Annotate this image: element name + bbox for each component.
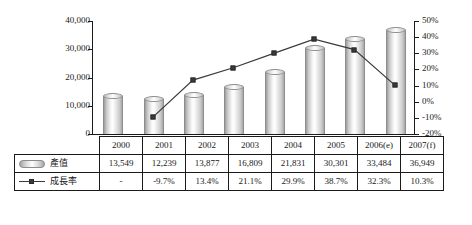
table-row: 成長率--9.7%13.4%21.1%29.9%38.7%32.3%10.3% xyxy=(15,173,444,191)
right-axis-tick-label: 10% xyxy=(422,81,439,90)
year-header-cell: 2005 xyxy=(315,137,358,155)
line-marker xyxy=(392,83,397,88)
data-cell: 30,301 xyxy=(315,155,358,173)
data-cell: 38.7% xyxy=(315,173,358,191)
data-cell: 21,831 xyxy=(272,155,315,173)
legend-label: 成長率 xyxy=(50,177,77,186)
left-axis-tick xyxy=(88,134,92,135)
data-table: 2000200120022003200420052006(e)2007(f)產值… xyxy=(14,136,444,191)
table-header-row: 2000200120022003200420052006(e)2007(f) xyxy=(15,137,444,155)
line-marker xyxy=(312,37,317,42)
bar-swatch-icon xyxy=(19,160,45,168)
data-cell: 36,949 xyxy=(401,155,444,173)
data-cell: -9.7% xyxy=(143,173,186,191)
right-axis-tick xyxy=(415,118,419,119)
table-row: 產值13,54912,23913,87716,80921,83130,30133… xyxy=(15,155,444,173)
year-header-cell: 2001 xyxy=(143,137,186,155)
line-series-growth-rate xyxy=(92,21,415,134)
data-cell: 29.9% xyxy=(272,173,315,191)
plot-area xyxy=(92,21,415,134)
data-cell: 13,549 xyxy=(100,155,143,173)
data-cell: 13.4% xyxy=(186,173,229,191)
line-marker xyxy=(190,78,195,83)
line-marker-swatch-icon xyxy=(19,178,45,186)
combo-chart-figure: 010,00020,00030,00040,000 -20%-10%0%10%2… xyxy=(0,0,472,225)
left-axis-tick-label: 20,000 xyxy=(65,73,90,82)
data-cell: 10.3% xyxy=(401,173,444,191)
data-cell: 21.1% xyxy=(229,173,272,191)
right-axis-tick xyxy=(415,21,419,22)
left-axis-tick-label: 10,000 xyxy=(65,101,90,110)
right-axis-tick xyxy=(415,86,419,87)
year-header-cell: 2004 xyxy=(272,137,315,155)
right-axis-tick xyxy=(415,69,419,70)
right-axis-tick-label: 50% xyxy=(422,16,439,25)
data-cell: 32.3% xyxy=(358,173,401,191)
right-axis-tick-label: 0% xyxy=(422,97,434,106)
data-cell: 12,239 xyxy=(143,155,186,173)
table-corner-cell xyxy=(15,137,100,155)
line-marker xyxy=(150,115,155,120)
right-axis-tick xyxy=(415,37,419,38)
right-axis-tick-label: 40% xyxy=(422,32,439,41)
year-header-cell: 2006(e) xyxy=(358,137,401,155)
year-header-cell: 2000 xyxy=(100,137,143,155)
right-axis-tick-label: 20% xyxy=(422,64,439,73)
right-axis-tick-label: 30% xyxy=(422,48,439,57)
line-marker xyxy=(231,65,236,70)
legend-label: 產值 xyxy=(50,159,68,168)
right-axis-tick xyxy=(415,53,419,54)
data-cell: 13,877 xyxy=(186,155,229,173)
legend-cell[interactable]: 產值 xyxy=(15,155,100,173)
data-cell: - xyxy=(100,173,143,191)
year-header-cell: 2007(f) xyxy=(401,137,444,155)
right-axis-tick xyxy=(415,134,419,135)
line-marker xyxy=(352,47,357,52)
category-axis-baseline xyxy=(92,134,415,135)
year-header-cell: 2003 xyxy=(229,137,272,155)
left-axis-tick-label: 30,000 xyxy=(65,44,90,53)
right-axis-tick-label: -10% xyxy=(422,113,442,122)
data-cell: 16,809 xyxy=(229,155,272,173)
legend-cell[interactable]: 成長率 xyxy=(15,173,100,191)
data-cell: 33,484 xyxy=(358,155,401,173)
left-axis-tick-label: 40,000 xyxy=(65,16,90,25)
year-header-cell: 2002 xyxy=(186,137,229,155)
right-axis-tick xyxy=(415,102,419,103)
line-marker xyxy=(271,51,276,56)
